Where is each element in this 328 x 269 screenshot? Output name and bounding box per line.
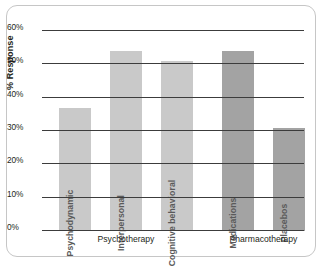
- gridline-60: [42, 30, 304, 31]
- gridline-40: [42, 97, 304, 98]
- group-label-psychotherapy: Psychotherapy: [59, 234, 193, 244]
- gridline-30: [42, 130, 304, 131]
- group-label-pharmacotherapy: Pharmacotherapy: [222, 234, 305, 244]
- y-tick-30: 30%: [7, 122, 37, 132]
- bar-psychodynamic[interactable]: Psychodynamic: [59, 108, 91, 231]
- y-tick-60: 60%: [7, 22, 37, 32]
- y-tick-20: 20%: [7, 155, 37, 165]
- gridline-20: [42, 163, 304, 164]
- gridline-10: [42, 197, 304, 198]
- y-tick-10: 10%: [7, 189, 37, 199]
- y-tick-40: 40%: [7, 89, 37, 99]
- bar-placebos[interactable]: Placebos: [273, 128, 305, 231]
- gridline-50: [42, 63, 304, 64]
- bar-cognitive-behavioral[interactable]: Cognitive behavioral: [161, 61, 193, 231]
- y-tick-50: 50%: [7, 55, 37, 65]
- chart-frame: % Response 60% 50% 40% 30% 20% 10% 0% Ps…: [6, 5, 316, 257]
- bar-medications[interactable]: Medications: [222, 51, 254, 231]
- gridline-0: [42, 230, 304, 231]
- bar-interpersonal[interactable]: Interpersonal: [110, 51, 142, 231]
- bar-label-cognitive-behavioral: Cognitive behavioral: [167, 180, 177, 267]
- bar-label-psychodynamic: Psychodynamic: [65, 190, 75, 257]
- y-tick-0: 0%: [7, 222, 37, 232]
- plot-area: Psychodynamic Interpersonal Cognitive be…: [42, 31, 304, 231]
